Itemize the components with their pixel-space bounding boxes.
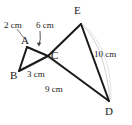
vertex-label-D: D xyxy=(105,106,113,117)
measure-label-CE: 6 cm xyxy=(36,21,54,30)
measure-label-ED: 10 cm xyxy=(94,50,116,59)
geometry-figure: A B C D E 2 cm 6 cm 3 cm 9 cm 10 cm xyxy=(0,0,132,125)
segment-AC xyxy=(27,47,48,56)
vertex-label-E: E xyxy=(74,5,81,16)
measure-label-BC: 3 cm xyxy=(27,70,45,79)
leader-6cm-arrowhead xyxy=(37,43,42,47)
vertex-label-C: C xyxy=(51,50,58,61)
vertex-label-A: A xyxy=(21,35,29,46)
vertex-label-B: B xyxy=(10,70,17,81)
triangle-edges xyxy=(19,24,109,101)
measure-label-AC: 2 cm xyxy=(4,21,22,30)
arc-10cm-outer xyxy=(83,24,111,100)
measure-label-CD: 9 cm xyxy=(45,85,63,94)
